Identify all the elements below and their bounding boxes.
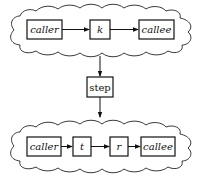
node-label: k: [97, 24, 103, 35]
node-label: caller: [30, 24, 60, 35]
step-box: step: [87, 77, 113, 97]
node-label: callee: [142, 24, 172, 35]
node-callee-bottom: callee: [141, 137, 175, 156]
node-t: t: [73, 137, 91, 156]
node-label: caller: [30, 141, 60, 152]
node-k: k: [90, 20, 110, 39]
diagram-canvas: caller k callee step caller t r callee: [0, 0, 198, 180]
node-r: r: [110, 137, 128, 156]
node-caller-top: caller: [27, 20, 62, 39]
step-label: step: [89, 82, 110, 93]
node-label: callee: [143, 141, 173, 152]
node-callee-top: callee: [139, 20, 174, 39]
node-caller-bottom: caller: [27, 137, 61, 156]
